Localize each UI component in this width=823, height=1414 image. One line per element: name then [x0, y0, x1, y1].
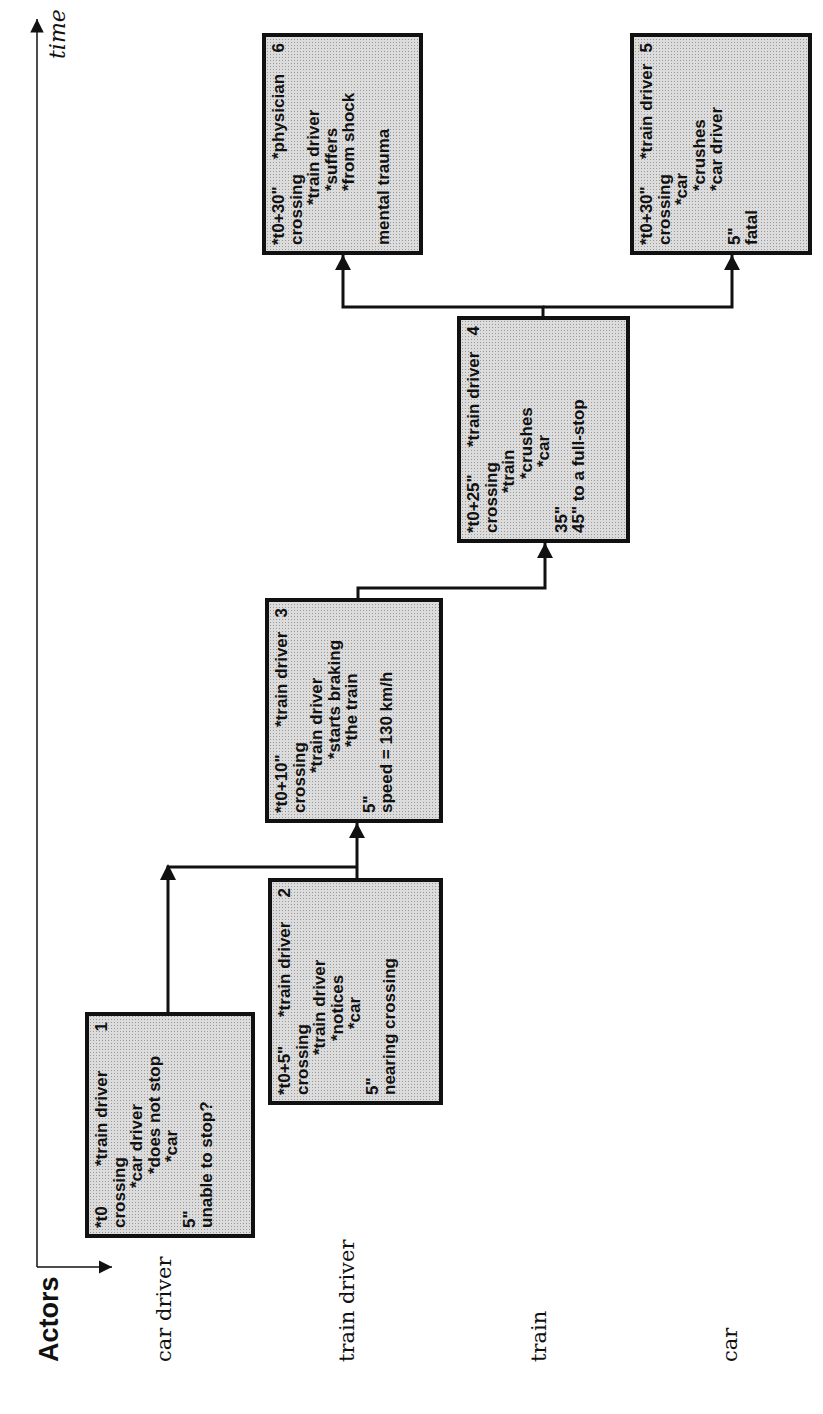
event-box-6: *t0+30"*physician6 crossing *train drive… — [262, 33, 423, 255]
event-note: fatal — [743, 43, 761, 245]
event-time: *t0+30" — [269, 186, 288, 245]
event-subject: *train — [500, 326, 518, 533]
event-box-4: *t0+25"*train driver4 crossing *train *c… — [457, 316, 630, 543]
event-action: *crushes — [691, 43, 709, 245]
event-box-1: *t0*train driver1 crossing *car driver *… — [85, 1012, 255, 1238]
event-number: 5 — [638, 43, 656, 52]
event-action: *starts braking — [326, 608, 344, 813]
event-number: 2 — [276, 888, 294, 897]
event-reporter: *physician — [270, 74, 288, 159]
event-number: 4 — [465, 326, 483, 335]
event-note: 45" to a full-stop — [570, 326, 588, 533]
event-sequence-diagram: time Actors car driver train driver trai… — [0, 0, 823, 1414]
arrowhead-6 — [335, 255, 351, 270]
time-axis-label: time — [45, 9, 70, 59]
event-box-5: *t0+30"*train driver5 crossing *car *cru… — [630, 33, 812, 255]
event-duration: 35" — [553, 326, 571, 533]
event-object: *car — [346, 888, 364, 1095]
event-reporter: *train driver — [93, 1071, 111, 1166]
event-object: *car — [163, 1022, 181, 1228]
event-duration: 5" — [181, 1022, 199, 1228]
event-action: *does not stop — [146, 1022, 164, 1228]
event-box-2: *t0+5"*train driver2 crossing *train dri… — [268, 878, 443, 1105]
connector-4-to-6 — [343, 255, 543, 316]
event-object: *the train — [343, 608, 361, 813]
event-note: speed = 130 km/h — [378, 608, 396, 813]
event-object: *car — [535, 326, 553, 533]
event-time: *t0+10" — [272, 754, 291, 813]
event-location: crossing — [656, 43, 674, 245]
event-duration — [358, 43, 376, 245]
event-duration: 5" — [361, 608, 379, 813]
actor-label-train: train — [527, 1311, 551, 1362]
actors-axis-title: Actors — [34, 1276, 65, 1362]
event-subject: *train driver — [305, 43, 323, 245]
event-reporter: *train driver — [273, 632, 291, 727]
connector-3-to-4 — [358, 543, 545, 598]
event-reporter: *train driver — [276, 922, 294, 1017]
event-box-3: *t0+10"*train driver3 crossing *train dr… — [265, 598, 443, 823]
event-subject: *car driver — [128, 1022, 146, 1228]
actor-label-train-driver: train driver — [335, 1240, 359, 1362]
event-action: *crushes — [518, 326, 536, 533]
arrowhead-3 — [537, 543, 553, 558]
event-location: crossing — [291, 608, 309, 813]
event-action: *notices — [329, 888, 347, 1095]
event-subject: *car — [673, 43, 691, 245]
event-note: unable to stop? — [198, 1022, 216, 1228]
event-time: *t0 — [92, 1206, 111, 1228]
event-action: *suffers — [323, 43, 341, 245]
event-time: *t0+25" — [464, 474, 483, 533]
event-reporter: *train driver — [638, 64, 656, 159]
event-object: *car driver — [708, 43, 726, 245]
event-number: 6 — [270, 43, 288, 52]
actor-label-car-driver: car driver — [152, 1256, 176, 1362]
event-location: crossing — [483, 326, 501, 533]
event-location: crossing — [111, 1022, 129, 1228]
event-duration: 5" — [364, 888, 382, 1095]
event-location: crossing — [294, 888, 312, 1095]
event-object: *from shock — [340, 43, 358, 245]
event-note: nearing crossing — [381, 888, 399, 1095]
event-number: 1 — [93, 1022, 111, 1031]
event-note: mental trauma — [375, 43, 393, 245]
arrowhead-5 — [724, 255, 740, 270]
actor-label-car: car — [718, 1328, 742, 1362]
connector-4-to-5 — [543, 255, 732, 307]
event-subject: *train driver — [308, 608, 326, 813]
arrowhead-2 — [349, 823, 365, 838]
event-duration: 5" — [726, 43, 744, 245]
event-location: crossing — [288, 43, 306, 245]
event-subject: *train driver — [311, 888, 329, 1095]
event-time: *t0+30" — [637, 186, 656, 245]
event-time: *t0+5" — [275, 1046, 294, 1095]
event-number: 3 — [273, 608, 291, 617]
event-reporter: *train driver — [465, 352, 483, 447]
